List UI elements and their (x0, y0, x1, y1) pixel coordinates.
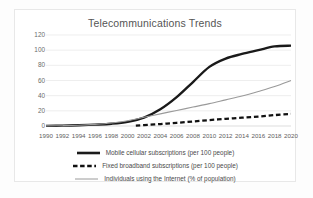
dashed-line-icon (72, 162, 97, 170)
legend-label-internet: Individuals using the Internet (% of pop… (104, 175, 235, 182)
solid-thick-line-icon (76, 149, 101, 157)
legend-item-mobile[interactable]: Mobile cellular subscriptions (per 100 p… (15, 146, 295, 159)
page-background: Telecommunications Trends 02040608010012… (0, 0, 313, 198)
series-line-1 (136, 114, 291, 126)
x-axis: 1990199219941996199820002002200420062008… (46, 132, 299, 144)
series-lines (46, 46, 291, 126)
chart-container: Telecommunications Trends 02040608010012… (14, 9, 296, 182)
legend-item-internet[interactable]: Individuals using the Internet (% of pop… (15, 172, 295, 185)
thin-line-icon (74, 175, 99, 183)
legend-label-broadband: Fixed broadband subscriptions (per 100 p… (102, 162, 238, 169)
series-line-0 (46, 46, 291, 126)
chart-legend: Mobile cellular subscriptions (per 100 p… (15, 146, 295, 185)
x-axis-tick-label: 2020 (280, 132, 302, 139)
chart-title: Telecommunications Trends (15, 17, 295, 29)
chart-plot-svg (15, 32, 297, 130)
legend-item-broadband[interactable]: Fixed broadband subscriptions (per 100 p… (15, 159, 295, 172)
plot-area (15, 32, 295, 130)
legend-label-mobile: Mobile cellular subscriptions (per 100 p… (106, 149, 235, 156)
